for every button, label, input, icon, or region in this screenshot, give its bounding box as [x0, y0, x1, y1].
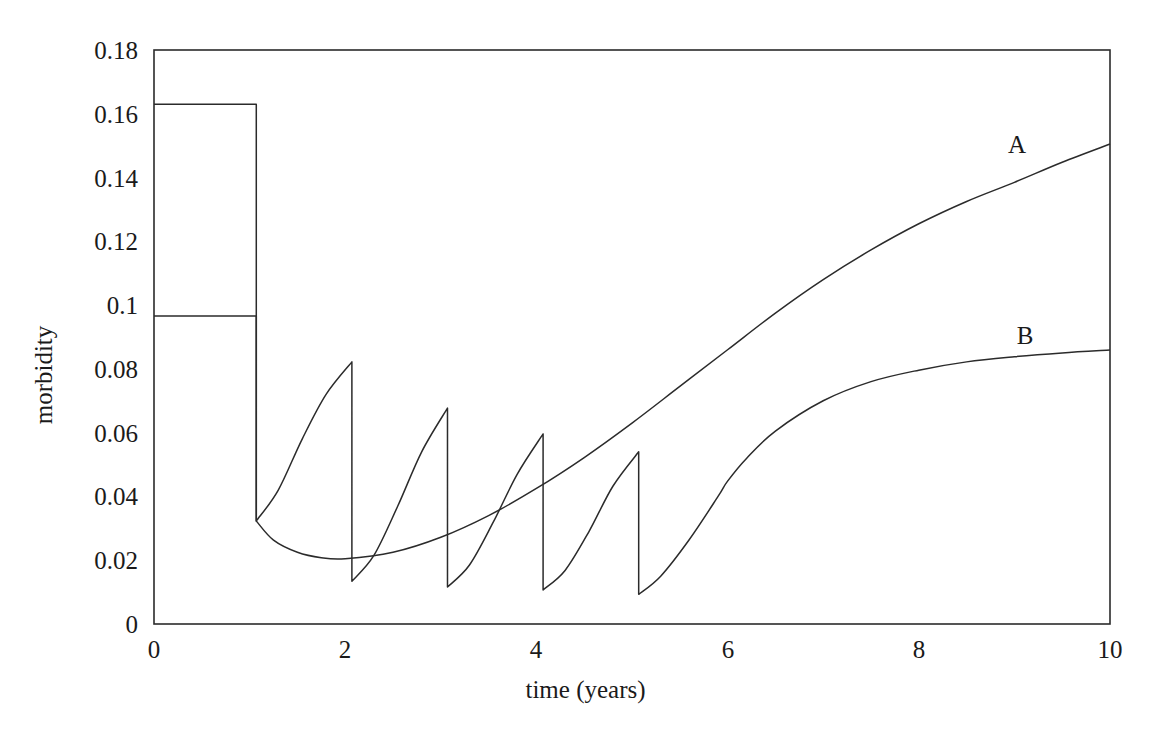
curve-label-a: A	[1008, 131, 1026, 159]
plot-frame	[154, 50, 1110, 624]
x-axis-title: time (years)	[525, 676, 645, 704]
xtick-label-0: 0	[148, 637, 161, 662]
xtick-label-2: 2	[339, 637, 352, 662]
series-line-a	[154, 104, 1110, 559]
ytick-label-0.14: 0.14	[60, 166, 138, 191]
xtick-label-10: 10	[1098, 637, 1123, 662]
ytick-label-0.1: 0.1	[60, 293, 138, 318]
ytick-label-0.18: 0.18	[60, 38, 138, 63]
xtick-label-4: 4	[530, 637, 543, 662]
ytick-label-0.12: 0.12	[60, 229, 138, 254]
ytick-label-0.06: 0.06	[60, 421, 138, 446]
ytick-label-0.08: 0.08	[60, 357, 138, 382]
morbidity-time-chart: 0 0.02 0.04 0.06 0.08 0.1 0.12 0.14 0.16…	[0, 0, 1171, 745]
y-axis-title: morbidity	[30, 326, 58, 425]
ytick-label-0.04: 0.04	[60, 484, 138, 509]
ytick-label-0: 0	[60, 612, 138, 637]
ytick-label-0.02: 0.02	[60, 548, 138, 573]
curve-label-b: B	[1017, 322, 1034, 350]
xtick-label-8: 8	[913, 637, 926, 662]
xtick-label-6: 6	[722, 637, 735, 662]
chart-canvas	[0, 0, 1171, 745]
ytick-label-0.16: 0.16	[60, 102, 138, 127]
